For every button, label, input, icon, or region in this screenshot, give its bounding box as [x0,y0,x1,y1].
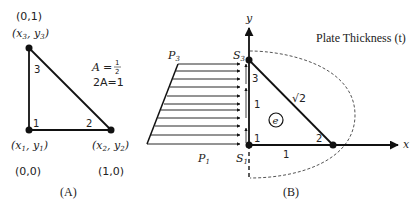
fem-diagram: (0,1) (x3, y3) 3 1 (x1, y1) (0,0) 2 (x2,… [0,0,418,208]
node-2-symbol: (x2, y2) [92,139,129,153]
svg-text:A: A [91,61,100,74]
x-axis-label: x [403,138,410,151]
svg-text:2: 2 [115,68,119,76]
surface-s3-label: S3 [233,49,246,63]
node-1-dot [26,127,33,134]
node-3-number: 3 [34,64,40,75]
node-s1-dot [246,142,253,149]
panel-b: y x P3 P1 S3 [147,12,410,199]
node-3-dot [26,45,33,52]
edge-segment-label-upper: 1 [254,99,260,110]
element-label: e [273,115,279,126]
corner-2-label: 2 [316,133,322,144]
distributed-load [147,64,240,144]
node-s3-dot [246,57,253,64]
area-formula: A = 1 2 [91,59,121,76]
node-3-coords: (0,1) [16,10,42,23]
panel-a: (0,1) (x3, y3) 3 1 (x1, y1) (0,0) 2 (x2,… [11,10,129,199]
two-area-label: 2A=1 [93,76,124,89]
caption-a: (A) [60,185,77,199]
corner-3-label: 3 [252,73,258,84]
node-1-symbol: (x1, y1) [11,139,48,153]
node-3-symbol: (x3, y3) [12,27,49,41]
svg-text:1: 1 [115,59,119,67]
bottom-edge-length: 1 [283,149,289,160]
surface-s1-label: S1 [236,152,248,166]
svg-text:=: = [103,61,112,74]
load-p3-label: P3 [167,49,180,63]
caption-b: (B) [283,185,299,199]
node-1-number: 1 [33,118,39,129]
node-2-number: 2 [86,118,92,129]
node-2-coords: (1,0) [98,165,124,178]
y-axis-label: y [245,12,253,25]
plate-thickness-title: Plate Thickness (t) [316,31,406,45]
node-2-dot-b [330,142,337,149]
corner-1-label: 1 [254,133,260,144]
node-2-dot [108,127,115,134]
node-1-coords: (0,0) [15,165,41,178]
load-p1-label: P1 [197,152,210,166]
hypotenuse-length: √2 [292,92,306,105]
